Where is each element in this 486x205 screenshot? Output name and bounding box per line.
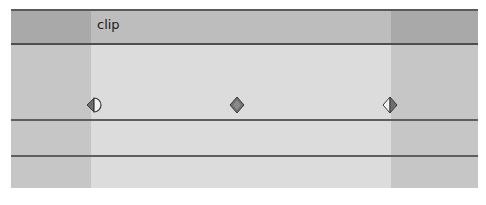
- curve-baseline: [11, 119, 478, 121]
- track-header: clip: [11, 9, 478, 45]
- clip-header[interactable]: clip: [91, 11, 391, 43]
- keyframe-2[interactable]: [228, 96, 246, 114]
- keyframe-3[interactable]: [381, 96, 399, 114]
- track-area-after-clip: [391, 45, 478, 188]
- timeline-track-panel: clip: [11, 9, 478, 188]
- clip-label: clip: [97, 17, 120, 32]
- clip-body[interactable]: [91, 45, 391, 188]
- keyframe-half-diamond-icon: [381, 96, 399, 114]
- track-area-before-clip: [11, 45, 91, 188]
- keyframe-diamond-icon: [228, 96, 246, 114]
- keyframe-ease-icon: [85, 96, 103, 114]
- keyframe-1[interactable]: [85, 96, 103, 114]
- track-row-divider: [11, 155, 478, 157]
